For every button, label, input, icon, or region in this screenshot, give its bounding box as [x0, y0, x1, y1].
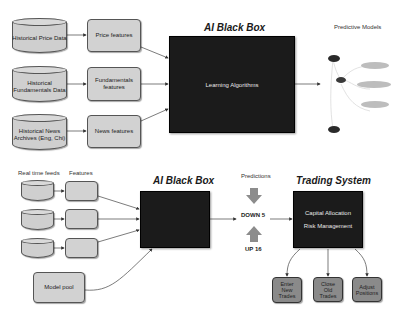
prediction-down: DOWN 5	[241, 212, 265, 218]
source-historical-news: Historical News Archives (Eng, Chi)	[12, 114, 67, 150]
feature-price: Price features	[87, 19, 141, 52]
model-node-dark	[328, 126, 340, 133]
predictive-models-caption: Predictive Models	[334, 24, 381, 30]
feature-box	[65, 238, 98, 258]
trading-system-box: Capital Allocation Risk Management	[293, 191, 363, 248]
action-close-old-trades: Close Old Trades	[313, 277, 343, 302]
source-historical-fundamentals: Historical Fundamentals Data	[12, 66, 67, 102]
down-arrow-icon	[246, 188, 262, 204]
prediction-up: UP 16	[245, 246, 262, 252]
model-node-dark	[336, 77, 346, 83]
source-label: Historical Fundamentals Data	[12, 74, 67, 100]
source-historical-price: Historical Price Data	[12, 18, 67, 53]
predictions-caption: Predictions	[241, 173, 271, 179]
action-adjust-positions: Adjust Positions	[352, 277, 382, 302]
action-enter-new-trades: Enter New Trades	[272, 277, 302, 303]
real-time-feeds-caption: Real time feeds	[18, 170, 60, 176]
feature-box	[65, 181, 98, 201]
feature-box	[65, 209, 98, 229]
feed-cylinder	[21, 180, 54, 201]
learning-algorithms-label: Learning Algorithms	[205, 82, 258, 88]
model-node-dark	[328, 55, 340, 62]
feature-fundamentals: Fundamentals features	[87, 67, 141, 101]
source-label: Historical Price Data	[12, 26, 67, 51]
learning-algorithms-box: Learning Algorithms	[169, 36, 295, 133]
model-node-light	[361, 62, 389, 69]
model-node-light	[361, 101, 389, 108]
trading-system-title: Trading System	[296, 175, 371, 186]
feed-cylinder	[21, 238, 54, 258]
up-arrow-icon	[246, 226, 262, 242]
capital-allocation-label: Capital Allocation	[305, 210, 351, 216]
features-caption: Features	[69, 170, 93, 176]
model-node-light	[357, 81, 391, 88]
training-title: AI Black Box	[204, 22, 265, 33]
model-pool-box: Model pool	[33, 272, 85, 303]
live-black-box-title: AI Black Box	[153, 175, 214, 186]
live-black-box	[140, 191, 210, 248]
risk-management-label: Risk Management	[304, 223, 352, 229]
source-label: Historical News Archives (Eng, Chi)	[12, 122, 67, 148]
feature-news: News features	[87, 115, 141, 148]
feed-cylinder	[21, 209, 54, 230]
